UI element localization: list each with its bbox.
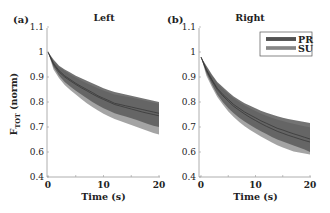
y-tick-label: 0.4	[182, 172, 197, 182]
panel-letter: (a)	[13, 14, 29, 25]
x-tick-label: 0	[45, 180, 51, 190]
x-tick-label: 0	[198, 180, 204, 190]
figure: 0.40.60.70.80.911.101020Time (s)Left(a)F…	[0, 0, 330, 213]
y-tick-label: 0.9	[30, 72, 45, 82]
legend-label-su: SU	[298, 43, 314, 54]
y-tick-label: 0.8	[182, 97, 197, 107]
y-tick-label: 0.7	[30, 122, 45, 132]
y-tick-label: 1.1	[182, 22, 196, 32]
x-tick-label: 10	[249, 180, 262, 190]
panel-letter: (b)	[167, 14, 183, 25]
panel-right: 0.40.60.70.80.911.101020Time (s)Right(b)…	[167, 12, 316, 202]
legend: PRSU	[260, 32, 314, 56]
x-tick-label: 20	[304, 180, 317, 190]
x-tick-label: 10	[97, 180, 110, 190]
band-pr	[201, 57, 310, 152]
x-axis-label: Time (s)	[81, 191, 125, 202]
y-tick-label: 0.9	[182, 72, 197, 82]
y-tick-label: 1.1	[30, 22, 44, 32]
panel-title: Left	[93, 12, 115, 23]
x-tick-label: 20	[153, 180, 166, 190]
y-tick-label: 1	[190, 47, 196, 57]
y-tick-label: 0.7	[182, 122, 197, 132]
y-axis-label: FTOT (norm)	[8, 73, 22, 136]
panel-left: 0.40.60.70.80.911.101020Time (s)Left(a)F…	[8, 12, 165, 202]
panel-title: Right	[235, 12, 265, 23]
band-pr	[48, 52, 159, 127]
x-axis-label: Time (s)	[233, 191, 277, 202]
y-tick-label: 0.6	[182, 147, 197, 157]
y-tick-label: 1	[38, 47, 44, 57]
y-tick-label: 0.6	[30, 147, 45, 157]
y-tick-label: 0.8	[30, 97, 45, 107]
y-tick-label: 0.4	[30, 172, 45, 182]
